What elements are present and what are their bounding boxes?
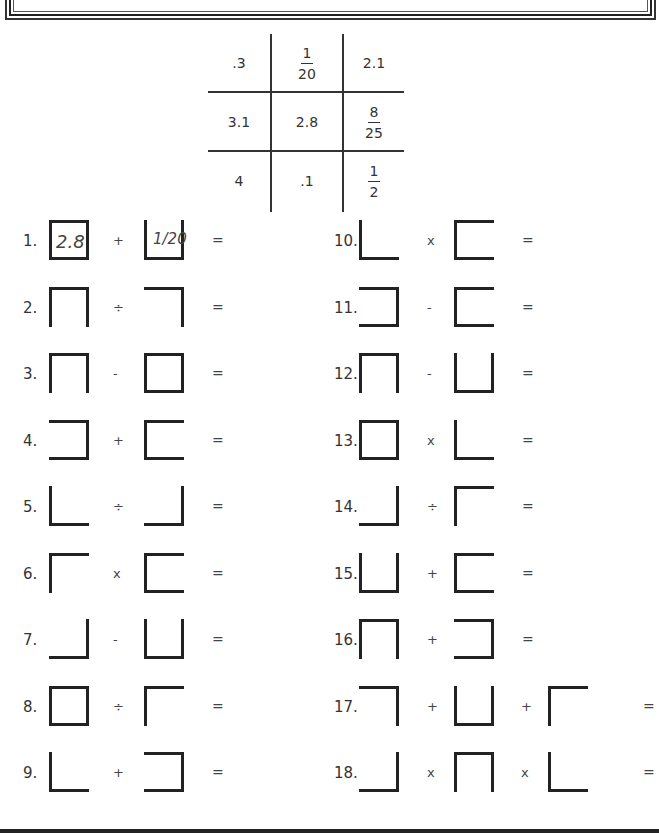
operator: -: [113, 632, 118, 647]
grid-cell: 12: [344, 152, 404, 210]
answer-box-bottom-left-right[interactable]: [454, 686, 494, 726]
answer-box-top-left[interactable]: [548, 686, 588, 726]
equals-sign: =: [522, 565, 534, 581]
answer-box-top-right-bottom[interactable]: [454, 619, 494, 659]
answer-box-left-bottom[interactable]: [454, 420, 494, 460]
problem-number: 18.: [334, 764, 358, 782]
answer-box-top-left-right[interactable]: [359, 353, 399, 393]
answer-box-top-left-right[interactable]: [359, 619, 399, 659]
answer-box-top-right-bottom[interactable]: [144, 752, 184, 792]
answer-box-bottom-left-right[interactable]: 1/20: [144, 220, 184, 260]
answer-box-left-bottom[interactable]: [359, 220, 399, 260]
problem-number: 10.: [334, 232, 358, 250]
problem-number: 9.: [23, 764, 37, 782]
header-frame: [9, 0, 652, 16]
fraction: 120: [298, 46, 316, 81]
operator: x: [521, 765, 529, 780]
problem-number: 4.: [23, 432, 37, 450]
equals-sign: =: [522, 299, 534, 315]
equals-sign: =: [522, 498, 534, 514]
grid-value: .1: [300, 173, 313, 189]
answer-box-right-bottom[interactable]: [359, 752, 399, 792]
fraction: 825: [365, 105, 383, 140]
numerator: 1: [301, 46, 314, 64]
answer-box-right-bottom[interactable]: [49, 619, 89, 659]
equals-sign: =: [212, 365, 224, 381]
answer-box-left-bottom[interactable]: [548, 752, 588, 792]
operator: +: [113, 765, 124, 780]
problem-number: 5.: [23, 498, 37, 516]
answer-box-full-box[interactable]: [49, 686, 89, 726]
problem-4: 4.+=: [0, 420, 300, 464]
answer-box-top-left-bottom[interactable]: [454, 220, 494, 260]
answer-box-top-left-right[interactable]: [49, 353, 89, 393]
problem-10: 10.x=: [310, 220, 659, 264]
operator: x: [427, 765, 435, 780]
answer-box-full-box[interactable]: [144, 353, 184, 393]
grid-cell: 2.8: [272, 93, 342, 151]
problem-number: 3.: [23, 365, 37, 383]
problem-13: 13.x=: [310, 420, 659, 464]
answer-box-top-left[interactable]: [49, 553, 89, 593]
problem-3: 3.-=: [0, 353, 300, 397]
denominator: 20: [298, 64, 316, 81]
answer-box-top-left-right[interactable]: [454, 752, 494, 792]
numerator: 8: [368, 105, 381, 123]
equals-sign: =: [522, 365, 534, 381]
answer-box-top-right[interactable]: [359, 686, 399, 726]
answer-box-top-right[interactable]: [144, 287, 184, 327]
numerator: 1: [368, 164, 381, 182]
problem-16: 16.+=: [310, 619, 659, 663]
answer-box-right-bottom[interactable]: [359, 486, 399, 526]
operator: -: [427, 366, 432, 381]
equals-sign: =: [643, 698, 655, 714]
grid-cell: 825: [344, 93, 404, 151]
problem-number: 13.: [334, 432, 358, 450]
answer-box-top-left-bottom[interactable]: [144, 553, 184, 593]
answer-box-bottom-left-right[interactable]: [454, 353, 494, 393]
equals-sign: =: [212, 764, 224, 780]
problem-number: 2.: [23, 299, 37, 317]
problem-1: 1.2.81/20+=: [0, 220, 300, 264]
answer-box-top-right-bottom[interactable]: [359, 287, 399, 327]
answer-box-full-box[interactable]: [359, 420, 399, 460]
equals-sign: =: [212, 498, 224, 514]
answer-box-left-bottom[interactable]: [49, 752, 89, 792]
operator: x: [427, 433, 435, 448]
denominator: 2: [370, 182, 379, 199]
answer-box-top-left-right[interactable]: [49, 287, 89, 327]
grid-value: 4: [235, 173, 244, 189]
grid-value: 2.8: [296, 114, 318, 130]
answer-box-bottom-left-right[interactable]: [359, 553, 399, 593]
answer-box-full-box[interactable]: 2.8: [49, 220, 89, 260]
answer-box-top-left-bottom[interactable]: [454, 287, 494, 327]
grid-value: .3: [232, 55, 245, 71]
operator: +: [427, 566, 438, 581]
problem-number: 15.: [334, 565, 358, 583]
answer-box-top-left[interactable]: [144, 686, 184, 726]
grid-cell: 2.1: [344, 34, 404, 92]
answer-box-top-right-bottom[interactable]: [49, 420, 89, 460]
grid-value: 2.1: [363, 55, 385, 71]
problem-2: 2.÷=: [0, 287, 300, 331]
answer-box-left-bottom[interactable]: [49, 486, 89, 526]
problem-number: 7.: [23, 631, 37, 649]
operator: x: [427, 233, 435, 248]
answer-box-right-bottom[interactable]: [144, 486, 184, 526]
answer-box-bottom-left-right[interactable]: [144, 619, 184, 659]
answer-box-top-left-bottom[interactable]: [144, 420, 184, 460]
equals-sign: =: [212, 631, 224, 647]
grid-cell: 3.1: [208, 93, 270, 151]
handwritten-answer: 1/20: [153, 230, 187, 248]
answer-box-top-left[interactable]: [454, 486, 494, 526]
problem-number: 11.: [334, 299, 358, 317]
answer-box-top-left-bottom[interactable]: [454, 553, 494, 593]
problem-15: 15.+=: [310, 553, 659, 597]
operator: +: [113, 433, 124, 448]
handwritten-answer: 2.8: [56, 231, 85, 252]
operator: ÷: [113, 499, 124, 514]
grid-cell: 4: [208, 152, 270, 210]
operator: x: [113, 566, 121, 581]
problem-5: 5.÷=: [0, 486, 300, 530]
grid-cell: .3: [208, 34, 270, 92]
